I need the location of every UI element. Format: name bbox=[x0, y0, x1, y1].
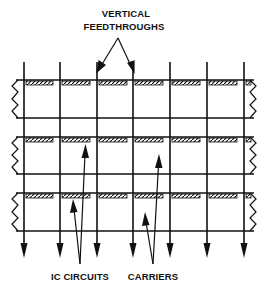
down-arrow-icon bbox=[94, 243, 101, 258]
vertical-feedthroughs bbox=[21, 62, 248, 258]
up-arrow-icon bbox=[82, 144, 90, 158]
ic-chip bbox=[135, 81, 163, 85]
ic-chip bbox=[26, 138, 53, 142]
carrier-3 bbox=[12, 193, 256, 231]
down-arrow-icon bbox=[21, 243, 28, 258]
ic-chip bbox=[172, 138, 200, 142]
right-break-zigzag-icon bbox=[250, 193, 256, 231]
down-arrow-icon bbox=[241, 243, 248, 258]
ic-chip bbox=[62, 81, 90, 85]
ic-chip bbox=[209, 138, 237, 142]
ic-chip bbox=[246, 138, 251, 142]
down-arrow-icon bbox=[204, 243, 211, 258]
ic-chip bbox=[99, 194, 127, 198]
ic-chip bbox=[99, 138, 127, 142]
carriers-pointer-arrows bbox=[142, 154, 163, 264]
ic-chip bbox=[246, 81, 251, 85]
right-break-zigzag-icon bbox=[250, 80, 256, 118]
carriers bbox=[12, 80, 256, 231]
title-line-1: VERTICAL bbox=[102, 8, 150, 19]
ic-chip bbox=[246, 194, 251, 198]
right-break-zigzag-icon bbox=[250, 137, 256, 174]
ic-chip bbox=[135, 138, 163, 142]
ic-chip bbox=[26, 81, 53, 85]
left-break-zigzag-icon bbox=[12, 193, 18, 231]
ic-circuits-pointer-arrows bbox=[70, 144, 89, 264]
ic-circuits-label: IC CIRCUITS bbox=[51, 271, 109, 282]
ic-chip bbox=[26, 194, 53, 198]
ic-chip bbox=[172, 194, 200, 198]
arrowhead-icon bbox=[97, 61, 105, 72]
up-arrow-icon bbox=[70, 199, 78, 213]
ic-chip bbox=[172, 81, 200, 85]
carrier-2 bbox=[12, 137, 256, 174]
left-break-zigzag-icon bbox=[12, 137, 18, 174]
ic-chip bbox=[62, 194, 90, 198]
ic-chip bbox=[209, 81, 237, 85]
ic-chip bbox=[209, 194, 237, 198]
carrier-1 bbox=[12, 80, 256, 118]
carriers-label: CARRIERS bbox=[128, 271, 178, 282]
down-arrow-icon bbox=[130, 243, 137, 258]
vertical-feedthroughs-label: VERTICAL FEEDTHROUGHS bbox=[84, 8, 165, 32]
ic-chip bbox=[62, 138, 90, 142]
ic-chip bbox=[135, 194, 163, 198]
feedthrough-pointer-arrows bbox=[97, 38, 134, 72]
carrier-feedthrough-diagram: VERTICAL FEEDTHROUGHS bbox=[0, 0, 268, 289]
up-arrow-icon bbox=[142, 212, 150, 226]
down-arrow-icon bbox=[57, 243, 64, 258]
up-arrow-icon bbox=[155, 154, 163, 168]
down-arrow-icon bbox=[167, 243, 174, 258]
ic-chip bbox=[99, 81, 127, 85]
left-break-zigzag-icon bbox=[12, 80, 18, 118]
title-line-2: FEEDTHROUGHS bbox=[84, 21, 165, 32]
